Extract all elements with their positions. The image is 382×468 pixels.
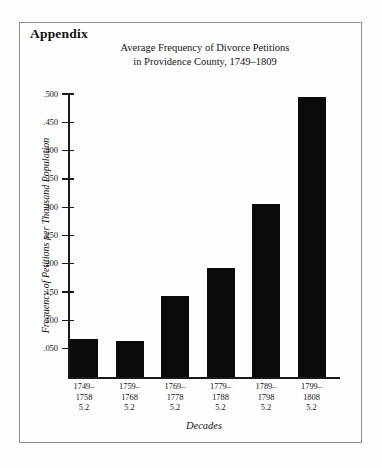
- y-tick-300: [62, 207, 74, 208]
- y-tick-150: [62, 291, 74, 292]
- y-tick-label: .300: [20, 202, 58, 212]
- y-tick-label: .350: [20, 173, 58, 183]
- x-category-label: 1769–17785.2: [149, 382, 201, 414]
- y-tick-500: [62, 93, 74, 94]
- x-category-line: 1808: [286, 393, 338, 404]
- y-tick-450: [62, 122, 74, 123]
- y-tick-label: .200: [20, 258, 58, 268]
- x-category-line: 1789–: [240, 382, 292, 393]
- bar: [252, 204, 280, 377]
- y-tick-400: [62, 150, 74, 151]
- x-category-line: 5.2: [149, 403, 201, 414]
- x-category-line: 1799–: [286, 382, 338, 393]
- x-axis-label: Decades: [68, 420, 340, 431]
- x-category-line: 1779–: [195, 382, 247, 393]
- y-tick-label: .500: [20, 89, 58, 99]
- bar: [70, 339, 98, 377]
- x-category-line: 5.2: [286, 403, 338, 414]
- x-category-line: 1768: [104, 393, 156, 404]
- bar: [161, 296, 189, 377]
- x-category-line: 5.2: [195, 403, 247, 414]
- x-category-label: 1799–18085.2: [286, 382, 338, 414]
- y-tick-label: .400: [20, 145, 58, 155]
- y-tick-250: [62, 235, 74, 236]
- chart-plot-area: Frequency of Petitions per Thousand Popu…: [0, 0, 382, 468]
- x-category-line: 5.2: [58, 403, 110, 414]
- x-category-line: 1758: [58, 393, 110, 404]
- y-tick-350: [62, 178, 74, 179]
- x-category-line: 1778: [149, 393, 201, 404]
- x-category-label: 1779–17885.2: [195, 382, 247, 414]
- bar: [207, 268, 235, 377]
- y-tick-label: .150: [20, 287, 58, 297]
- x-category-line: 1749–: [58, 382, 110, 393]
- x-category-line: 5.2: [104, 403, 156, 414]
- x-category-label: 1759–17685.2: [104, 382, 156, 414]
- y-tick-label: .450: [20, 117, 58, 127]
- y-tick-label: .050: [20, 343, 58, 353]
- x-category-line: 5.2: [240, 403, 292, 414]
- x-category-label: 1789–17985.2: [240, 382, 292, 414]
- y-tick-200: [62, 263, 74, 264]
- x-category-line: 1769–: [149, 382, 201, 393]
- x-category-line: 1788: [195, 393, 247, 404]
- x-axis-line: [68, 377, 340, 379]
- x-category-line: 1798: [240, 393, 292, 404]
- x-category-label: 1749–17585.2: [58, 382, 110, 414]
- bar: [298, 97, 326, 377]
- y-tick-100: [62, 320, 74, 321]
- bar: [116, 341, 144, 377]
- y-tick-label: .250: [20, 230, 58, 240]
- y-tick-label: .100: [20, 315, 58, 325]
- x-category-line: 1759–: [104, 382, 156, 393]
